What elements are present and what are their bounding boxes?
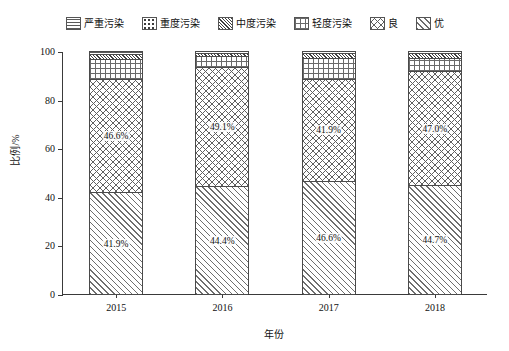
legend-label: 轻度污染 (312, 18, 352, 29)
y-axis-tick-label: 20 (45, 241, 55, 251)
y-axis-tick-label: 0 (50, 290, 55, 300)
y-axis-tick (58, 149, 63, 150)
bar-2015[interactable]: 46.6%41.9% (89, 51, 143, 294)
segment-pattern-dots (90, 53, 142, 54)
legend-swatch-square-grid-icon (294, 17, 309, 30)
bar-value-label: 44.4% (209, 236, 236, 246)
x-axis-tick-label: 2018 (425, 302, 445, 313)
bar-segment-轻度污染[interactable] (90, 60, 142, 80)
bar-segment-优[interactable]: 41.9% (90, 193, 142, 295)
bar-value-label: 49.1% (209, 122, 236, 132)
legend-item-liang: 良 (370, 17, 398, 30)
y-axis-tick (58, 198, 63, 199)
segment-pattern-dense-diagonal (409, 54, 461, 58)
x-axis-tick-label: 2017 (319, 302, 339, 313)
bar-value-label: 41.9% (103, 239, 130, 249)
legend-swatch-dots-icon (142, 17, 157, 30)
bar-value-label: 41.9% (315, 125, 342, 135)
segment-pattern-dense-diagonal (90, 55, 142, 59)
bar-value-label: 46.6% (315, 233, 342, 243)
y-axis-title: 比例/% (7, 134, 22, 165)
bar-segment-良[interactable]: 47.0% (409, 72, 461, 186)
chart-canvas: 严重污染 重度污染 中度污染 轻度污染 良 优 比例/% 02040608010… (0, 0, 509, 351)
bar-segment-优[interactable]: 44.7% (409, 186, 461, 295)
y-axis-tick (58, 295, 63, 296)
y-axis-tick-label: 80 (45, 96, 55, 106)
bar-segment-轻度污染[interactable] (303, 59, 355, 80)
segment-pattern-square-grid (90, 60, 142, 79)
segment-pattern-dense-diagonal (196, 54, 248, 56)
segment-pattern-dense-diagonal (303, 54, 355, 58)
segment-pattern-square-grid (303, 59, 355, 79)
bar-value-label: 46.6% (103, 131, 130, 141)
bar-segment-良[interactable]: 49.1% (196, 68, 248, 187)
legend-swatch-diagonal-hatch-icon (416, 17, 431, 30)
legend-item-yanzhong: 严重污染 (66, 17, 124, 30)
legend-item-qing: 轻度污染 (294, 17, 352, 30)
legend-item-zhong: 中度污染 (218, 17, 276, 30)
y-axis-tick-label: 60 (45, 144, 55, 154)
bar-2017[interactable]: 41.9%46.6% (302, 51, 356, 294)
bar-value-label: 47.0% (422, 124, 449, 134)
y-axis-tick-label: 100 (40, 47, 55, 57)
bar-segment-轻度污染[interactable] (196, 57, 248, 68)
bar-2018[interactable]: 47.0%44.7% (408, 51, 462, 294)
legend-label: 优 (434, 18, 444, 29)
bar-segment-轻度污染[interactable] (409, 59, 461, 72)
legend-swatch-dense-diagonal-icon (218, 17, 233, 30)
y-axis-tick-label: 40 (45, 193, 55, 203)
legend-item-you: 优 (416, 17, 444, 30)
legend-label: 严重污染 (84, 18, 124, 29)
plot-area: 020406080100 2015201620172018 46.6%41.9%… (62, 52, 487, 295)
y-axis-tick (58, 52, 63, 53)
bar-segment-良[interactable]: 46.6% (90, 80, 142, 193)
y-axis-tick (58, 246, 63, 247)
segment-pattern-square-grid (409, 59, 461, 71)
x-axis-tick-label: 2016 (212, 302, 232, 313)
chart-legend: 严重污染 重度污染 中度污染 轻度污染 良 优 (0, 12, 509, 34)
legend-label: 重度污染 (160, 18, 200, 29)
bar-segment-优[interactable]: 44.4% (196, 187, 248, 295)
legend-label: 良 (388, 18, 398, 29)
segment-pattern-square-grid (196, 57, 248, 67)
legend-swatch-cross-hatch-icon (370, 17, 385, 30)
bar-segment-良[interactable]: 41.9% (303, 80, 355, 182)
x-axis-title: 年份 (264, 326, 284, 341)
legend-label: 中度污染 (236, 18, 276, 29)
x-axis-tick-label: 2015 (106, 302, 126, 313)
legend-swatch-horizontal-lines-icon (66, 17, 81, 30)
legend-item-zhongdu: 重度污染 (142, 17, 200, 30)
bar-value-label: 44.7% (422, 235, 449, 245)
bar-segment-优[interactable]: 46.6% (303, 182, 355, 295)
y-axis-tick (58, 101, 63, 102)
bar-2016[interactable]: 49.1%44.4% (195, 51, 249, 294)
